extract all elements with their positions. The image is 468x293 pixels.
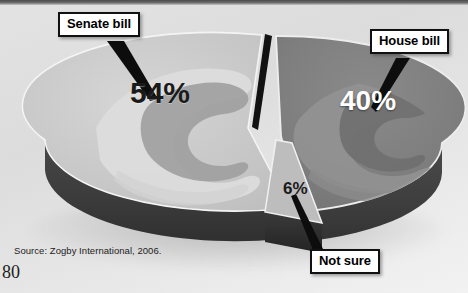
source-note: Source: Zogby International, 2006. <box>14 245 161 256</box>
callout-label-notsure[interactable]: Not sure <box>310 249 380 274</box>
slide-canvas: 54% 40% 6% Senate bill House bill Not su… <box>0 0 468 293</box>
pie-value-label-senate: 54% <box>130 78 190 108</box>
pie-slice-senate[interactable] <box>22 32 290 241</box>
pie-value-label-notsure: 6% <box>283 180 308 197</box>
pie-value-label-house: 40% <box>340 87 396 115</box>
page-number: 80 <box>2 262 20 283</box>
callout-label-senate[interactable]: Senate bill <box>58 12 140 37</box>
callout-label-house[interactable]: House bill <box>370 29 449 54</box>
